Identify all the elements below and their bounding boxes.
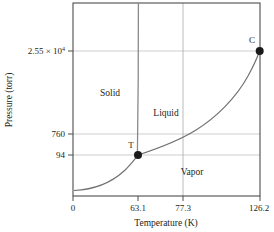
x-tick-label-77-3: 77.3	[175, 203, 191, 213]
region-label-solid: Solid	[100, 88, 120, 98]
y-tick-mantissa: 2.55 × 10	[28, 46, 63, 56]
critical-point-label: C	[249, 35, 255, 45]
y-tick-label-25500: 2.55 × 104	[28, 46, 65, 57]
y-tick-label-94: 94	[56, 150, 66, 160]
critical-point-marker	[256, 47, 264, 55]
region-label-vapor: Vapor	[181, 167, 205, 177]
y-axis-title: Pressure (torr)	[4, 73, 15, 128]
triple-point-marker	[134, 151, 142, 159]
x-axis-title: Temperature (K)	[134, 218, 197, 229]
phase-diagram-svg: T C Solid Liquid Vapor 2.55 × 104 760 94…	[0, 0, 274, 232]
triple-point-label: T	[128, 140, 134, 150]
x-tick-label-0: 0	[71, 203, 76, 213]
phase-diagram-figure: T C Solid Liquid Vapor 2.55 × 104 760 94…	[0, 0, 274, 232]
x-tick-label-63-1: 63.1	[130, 203, 146, 213]
y-tick-label-760: 760	[52, 129, 66, 139]
x-tick-label-126-2: 126.2	[249, 203, 269, 213]
region-label-liquid: Liquid	[153, 108, 179, 118]
y-tick-exponent: 4	[62, 46, 65, 52]
